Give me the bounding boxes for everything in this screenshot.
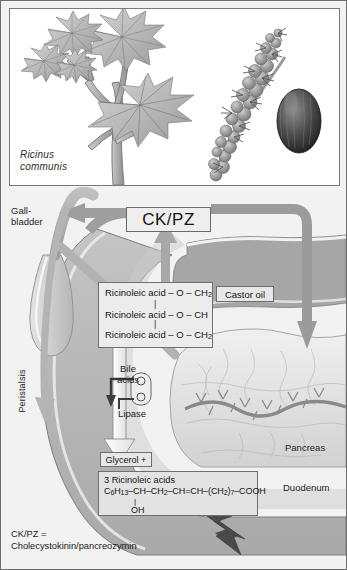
label-peristalsis: Peristalsis [17, 361, 27, 421]
species-name: Ricinus communis [20, 149, 67, 172]
label-bile-acids-line2: acids [113, 375, 143, 386]
ricinus-seed [277, 89, 321, 153]
ricinoleic-formula: C6H13–CH–CH2–CH=CH–(CH2)7–COOH [104, 486, 252, 498]
plant-leaves [21, 9, 194, 147]
label-lipase: Lipase [118, 409, 146, 420]
label-duodenum: Duodenum [283, 483, 329, 494]
ricinoleic-hydroxyl: OH [104, 505, 252, 515]
label-gallbladder: Gall- bladder [11, 206, 63, 228]
legend-line1: CK/PZ = [11, 529, 137, 541]
glycerol-label: Glycerol + [106, 455, 147, 465]
triglyceride-line-1: Ricinoleic acid – O – CH2 [105, 287, 206, 300]
figure-page: Ricinus communis [0, 0, 347, 570]
castor-oil-label: Castor oil [225, 289, 265, 300]
species-name-line1: Ricinus [20, 149, 67, 161]
castor-oil-box: Castor oil [216, 286, 274, 302]
triglyceride-bond-1: | [105, 300, 206, 309]
triglyceride-line-3-sub: 2 [208, 334, 212, 341]
inflorescence [209, 28, 288, 181]
species-name-line2: communis [20, 161, 67, 173]
ricinoleic-acids-box: 3 Ricinoleic acids C6H13–CH–CH2–CH=CH–(C… [98, 471, 258, 516]
triglyceride-line-1-sub: 2 [208, 291, 212, 298]
ckpz-label: CK/PZ [142, 210, 195, 230]
triglyceride-structure-box: Ricinoleic acid – O – CH2 | Ricinoleic a… [98, 282, 213, 348]
triglyceride-bond-2: | [105, 320, 206, 329]
triglyceride-line-3-text: Ricinoleic acid – O – CH [105, 329, 208, 340]
legend-line2: Cholecystokinin/pancreozymin [11, 541, 137, 553]
label-pancreas: Pancreas [285, 443, 325, 454]
triglyceride-line-3: Ricinoleic acid – O – CH2 [105, 329, 206, 342]
ckpz-box: CK/PZ [126, 207, 211, 232]
glycerol-box: Glycerol + [100, 452, 152, 467]
label-gallbladder-line2: bladder [11, 217, 63, 228]
formula-rest: –CH–CH2–CH=CH–(CH2)7–COOH [128, 486, 266, 496]
legend-ckpz-definition: CK/PZ = Cholecystokinin/pancreozymin [11, 529, 137, 552]
botanical-illustration-panel: Ricinus communis [9, 8, 340, 186]
triglyceride-line-1-text: Ricinoleic acid – O – CH [105, 287, 208, 298]
ricinoleic-title: 3 Ricinoleic acids [104, 475, 252, 486]
label-bile-acids: Bile acids [113, 364, 143, 386]
ricinoleic-bond: | [104, 498, 252, 505]
